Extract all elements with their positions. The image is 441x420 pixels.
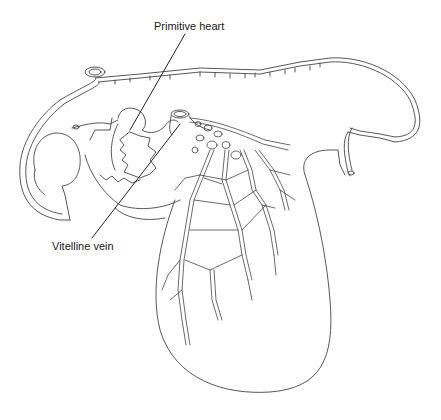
label-primitive-heart: Primitive heart	[154, 20, 224, 32]
yolk-sac-outline	[156, 150, 345, 392]
vitelline-vein-shape	[170, 110, 210, 135]
primitive-heart-leader	[130, 34, 185, 130]
vascular-network	[162, 118, 295, 345]
vitelline-vein-leader	[92, 124, 180, 238]
label-vitelline-vein: Vitelline vein	[52, 240, 114, 252]
head-region	[34, 118, 180, 220]
embryo-diagram	[0, 0, 441, 420]
embryo-body-outline	[20, 58, 420, 220]
